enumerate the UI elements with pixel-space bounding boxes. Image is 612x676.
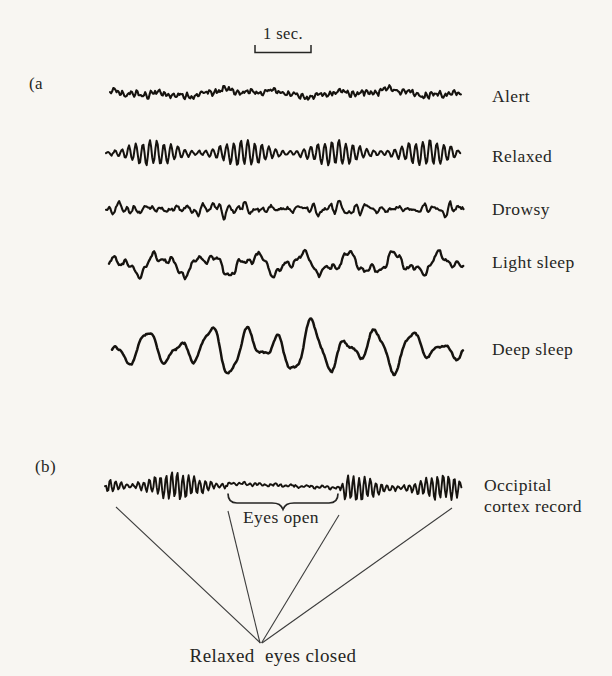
annotation-line-mid-right <box>262 515 340 643</box>
trace-drowsy <box>106 201 464 220</box>
trace-light-sleep <box>109 250 463 279</box>
annotation-line-right <box>262 508 452 643</box>
occipital-record-label: Occipital cortex record <box>484 475 582 517</box>
trace-relaxed <box>106 140 460 165</box>
scale-bar-bracket <box>255 45 311 53</box>
state-label-light-sleep: Light sleep <box>492 252 575 272</box>
annotation-line-left <box>116 507 261 643</box>
scale-bar-label: 1 sec. <box>238 25 328 44</box>
panel-a-tag: (a <box>29 74 43 94</box>
trace-deep-sleep <box>112 319 463 376</box>
panel-b-tag: (b) <box>35 457 56 477</box>
trace-occipital <box>105 472 461 500</box>
state-label-relaxed: Relaxed <box>492 146 552 166</box>
state-label-drowsy: Drowsy <box>492 199 550 219</box>
annotation-line-mid-left <box>228 511 260 643</box>
eyes-open-label: Eyes open <box>230 507 332 527</box>
state-label-deep-sleep: Deep sleep <box>492 339 573 359</box>
eeg-figure: 1 sec. (a Alert Relaxed Drowsy Light sle… <box>0 0 612 676</box>
relaxed-eyes-closed-label: Relaxed eyes closed <box>158 645 388 667</box>
state-label-alert: Alert <box>492 86 530 106</box>
trace-alert <box>110 85 461 100</box>
